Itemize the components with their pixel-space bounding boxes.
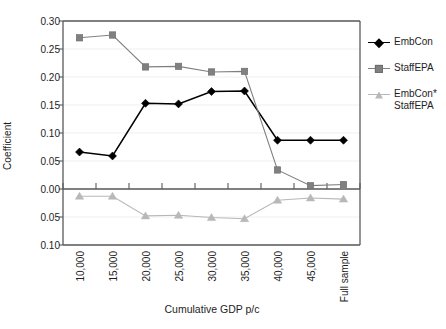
x-tick-label: 30,000	[207, 251, 218, 282]
data-point-embcon	[274, 136, 282, 144]
y-tick-label: 0.05	[26, 212, 60, 223]
x-tick-label: 20,000	[141, 251, 152, 282]
legend-item: EmbCon	[368, 36, 446, 49]
y-tick-label: 0.10	[26, 240, 60, 251]
data-point-staffepa	[76, 35, 82, 41]
legend-label: EmbCon* StaffEPA	[394, 88, 437, 111]
x-axis-title: Cumulative GDP p/c	[63, 303, 361, 315]
legend-marker	[374, 38, 383, 47]
y-tick-label: 0.25	[26, 44, 60, 55]
data-point-embcon	[340, 136, 348, 144]
x-tick-label: Full sample	[339, 251, 350, 302]
data-point-staffepa	[208, 69, 214, 75]
data-point-staffepa	[340, 181, 346, 187]
y-axis-title: Coefficient	[2, 86, 16, 206]
series-line-embcon	[80, 91, 344, 156]
data-point-staffepa	[175, 63, 181, 69]
data-point-staffepa	[109, 32, 115, 38]
x-tick-label: 15,000	[108, 251, 119, 282]
y-tick-label: 0.15	[26, 100, 60, 111]
x-tick-label: 10,000	[75, 251, 86, 282]
chart-legend: EmbConStaffEPAEmbCon* StaffEPA	[368, 36, 446, 124]
diamond-icon	[368, 36, 390, 49]
legend-item: StaffEPA	[368, 62, 446, 75]
data-point-staffepa	[241, 68, 247, 74]
x-tick-label: 40,000	[273, 251, 284, 282]
y-axis-tick-labels: 0.300.250.200.150.100.050.000.050.10	[22, 0, 60, 329]
data-point-embcon	[241, 87, 249, 95]
data-point-embcon	[307, 136, 315, 144]
data-point-staffepa	[142, 64, 148, 70]
data-point-staffepa	[274, 167, 280, 173]
triangle-icon	[368, 88, 390, 101]
x-tick-label: 45,000	[306, 251, 317, 282]
y-tick-label: 0.30	[26, 16, 60, 27]
legend-item: EmbCon* StaffEPA	[368, 88, 446, 111]
data-point-embcon-staffepa	[306, 194, 314, 201]
data-point-staffepa	[307, 182, 313, 188]
y-tick-label: 0.05	[26, 156, 60, 167]
legend-label: EmbCon	[394, 36, 433, 48]
data-point-embcon	[175, 100, 183, 108]
square-icon	[368, 62, 390, 75]
data-point-embcon	[208, 88, 216, 96]
legend-label: StaffEPA	[394, 62, 434, 74]
y-tick-label: 0.20	[26, 72, 60, 83]
y-tick-label: 0.10	[26, 128, 60, 139]
y-tick-label: 0.00	[26, 184, 60, 195]
legend-marker	[375, 91, 383, 98]
data-point-embcon	[76, 148, 84, 156]
data-point-embcon	[109, 152, 117, 160]
series-line-staffepa	[80, 35, 344, 186]
data-point-embcon	[142, 99, 150, 107]
x-tick-label: 25,000	[174, 251, 185, 282]
chart-figure: Coefficient 0.300.250.200.150.100.050.00…	[0, 0, 446, 329]
legend-marker	[375, 64, 383, 72]
x-tick-label: 35,000	[240, 251, 251, 282]
